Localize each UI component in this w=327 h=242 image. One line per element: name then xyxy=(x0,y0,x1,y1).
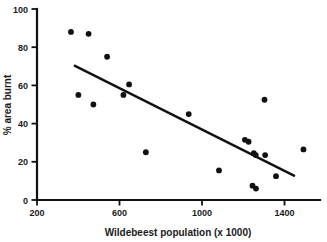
data-point xyxy=(253,152,259,158)
data-point xyxy=(253,186,259,192)
y-tick-label-60: 60 xyxy=(18,81,28,91)
y-tick-label-20: 20 xyxy=(18,157,28,167)
data-point xyxy=(246,139,252,145)
x-tick-labels: 200 600 1000 1400 xyxy=(29,208,294,218)
x-tick-label-1400: 1400 xyxy=(274,208,294,218)
x-tick-label-600: 600 xyxy=(112,208,127,218)
chart-canvas: 100 80 60 40 20 0 % area burnt 200 600 1… xyxy=(0,0,327,242)
x-axis-group: 200 600 1000 1400 Wildebeest population … xyxy=(29,200,320,238)
x-axis-title: Wildebeest population (x 1000) xyxy=(105,227,252,238)
trend-line-layer xyxy=(74,65,295,176)
data-point xyxy=(68,29,74,35)
data-point xyxy=(273,173,279,179)
scatter-plot-figure: 100 80 60 40 20 0 % area burnt 200 600 1… xyxy=(0,0,327,242)
data-point xyxy=(186,111,192,117)
data-point xyxy=(301,146,307,152)
y-tick-label-40: 40 xyxy=(18,119,28,129)
y-tick-label-100: 100 xyxy=(13,5,28,15)
data-point xyxy=(86,31,92,37)
data-point xyxy=(90,102,96,108)
x-tick-label-1000: 1000 xyxy=(192,208,212,218)
regression-line xyxy=(74,65,295,176)
y-axis-group: 100 80 60 40 20 0 % area burnt xyxy=(2,5,37,206)
y-axis-title: % area burnt xyxy=(2,74,13,135)
data-point xyxy=(216,167,222,173)
data-point xyxy=(104,54,110,60)
data-point xyxy=(262,152,268,158)
data-point xyxy=(262,97,268,103)
data-point xyxy=(143,149,149,155)
y-tick-label-0: 0 xyxy=(23,196,28,206)
data-points-layer xyxy=(68,29,306,191)
data-point xyxy=(126,82,132,88)
y-tick-label-80: 80 xyxy=(18,43,28,53)
y-tick-labels: 100 80 60 40 20 0 xyxy=(13,5,28,206)
data-point xyxy=(75,92,81,98)
data-point xyxy=(121,92,127,98)
x-tick-label-200: 200 xyxy=(29,208,44,218)
